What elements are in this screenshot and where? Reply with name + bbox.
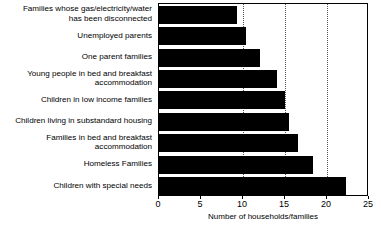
x-tick-label: 25 (353, 199, 381, 210)
x-tick-label: 5 (185, 199, 215, 210)
bar (159, 113, 289, 131)
category-label: Children with special needs (0, 181, 152, 190)
category-label: Children living in substandard housing (0, 116, 152, 125)
category-label: Families in bed and breakfast accommodat… (0, 133, 152, 152)
category-label: Children in low income families (0, 95, 152, 104)
category-label-axis: Families whose gas/electricity/water has… (0, 3, 155, 196)
category-label: Families whose gas/electricity/water has… (0, 4, 152, 23)
bar (159, 177, 346, 195)
bar (159, 91, 285, 109)
category-label: Unemployed parents (0, 31, 152, 40)
x-tick-label: 10 (227, 199, 257, 210)
category-label: One parent families (0, 52, 152, 61)
bar (159, 6, 237, 24)
bar (159, 27, 246, 45)
bar (159, 156, 313, 174)
bar (159, 134, 298, 152)
bar (159, 70, 277, 88)
bar (159, 49, 260, 67)
x-tick-label: 0 (143, 199, 173, 210)
x-tick-label: 15 (269, 199, 299, 210)
horizontal-bar-chart: Families whose gas/electricity/water has… (0, 0, 381, 225)
category-label: Young people in bed and breakfast accomm… (0, 69, 152, 88)
bars-layer (159, 4, 367, 195)
x-tick-label: 20 (311, 199, 341, 210)
plot-area (158, 3, 368, 196)
category-label: Homeless Families (0, 159, 152, 168)
x-axis-title: Number of households/families (158, 212, 368, 225)
